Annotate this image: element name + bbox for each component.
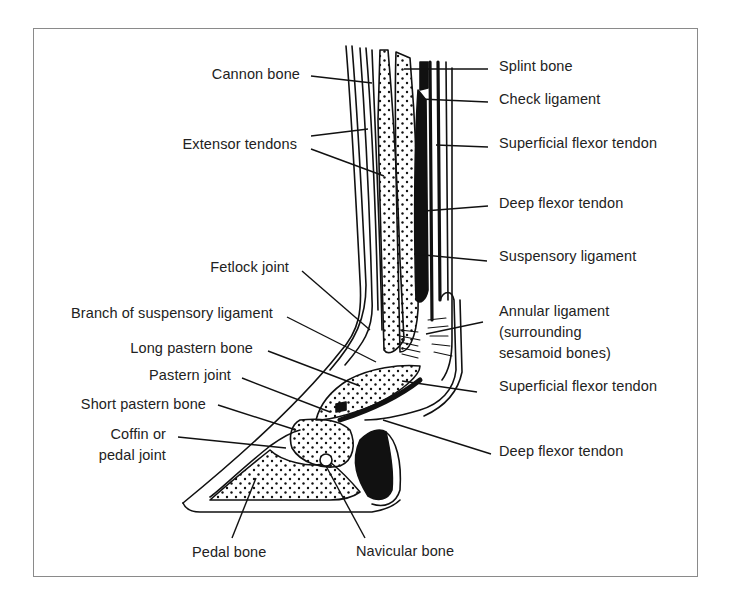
label-long-pastern-bone: Long pastern bone (130, 338, 253, 359)
label-extensor-tendons: Extensor tendons (183, 134, 297, 155)
label-superficial-flexor-tendon-lower: Superficial flexor tendon (499, 376, 657, 397)
label-fetlock-joint: Fetlock joint (210, 257, 289, 278)
label-pastern-joint: Pastern joint (149, 365, 231, 386)
label-annular-ligament: Annular ligament (surrounding sesamoid b… (499, 301, 611, 364)
label-navicular-bone: Navicular bone (356, 541, 454, 562)
label-cannon-bone: Cannon bone (212, 64, 300, 85)
label-line: Coffin or (99, 424, 166, 445)
label-deep-flexor-tendon: Deep flexor tendon (499, 193, 623, 214)
label-superficial-flexor-tendon: Superficial flexor tendon (499, 133, 657, 154)
label-line: sesamoid bones) (499, 343, 611, 364)
label-line: (surrounding (499, 322, 611, 343)
label-check-ligament: Check ligament (499, 89, 600, 110)
label-pedal-bone: Pedal bone (192, 542, 266, 563)
label-coffin-or-pedal-joint: Coffin or pedal joint (99, 424, 166, 466)
label-suspensory-ligament: Suspensory ligament (499, 246, 636, 267)
label-short-pastern-bone: Short pastern bone (81, 394, 206, 415)
label-deep-flexor-tendon-lower: Deep flexor tendon (499, 441, 623, 462)
label-branch-of-suspensory-ligament: Branch of suspensory ligament (71, 303, 273, 324)
label-line: pedal joint (99, 445, 166, 466)
label-splint-bone: Splint bone (499, 56, 573, 77)
label-line: Annular ligament (499, 301, 611, 322)
